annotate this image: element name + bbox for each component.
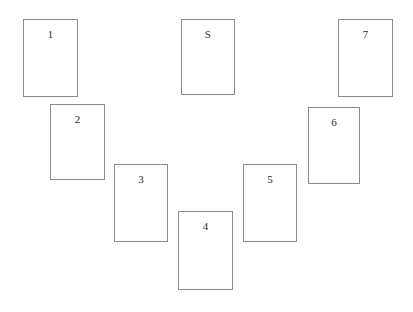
card-label: 2	[51, 113, 104, 125]
card-2[interactable]: 2	[50, 104, 105, 180]
diagram-canvas: 123456S7	[0, 0, 413, 312]
card-label: 5	[244, 173, 296, 185]
card-label: 1	[24, 28, 77, 40]
card-5[interactable]: 5	[243, 164, 297, 242]
card-s[interactable]: S	[181, 19, 235, 95]
card-label: 4	[179, 220, 232, 232]
card-6[interactable]: 6	[308, 107, 360, 184]
card-1[interactable]: 1	[23, 19, 78, 97]
card-3[interactable]: 3	[114, 164, 168, 242]
card-label: 3	[115, 173, 167, 185]
card-label: 6	[309, 116, 359, 128]
card-label: 7	[339, 28, 392, 40]
card-4[interactable]: 4	[178, 211, 233, 290]
card-7[interactable]: 7	[338, 19, 393, 97]
card-label: S	[182, 28, 234, 40]
